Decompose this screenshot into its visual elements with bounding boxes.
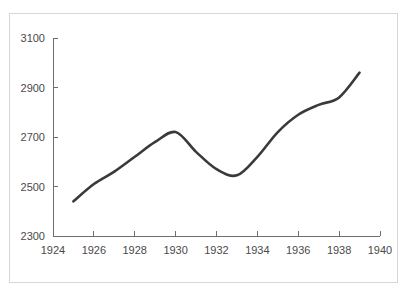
x-tick-label: 1940 bbox=[368, 244, 392, 256]
y-tick-label: 2500 bbox=[21, 181, 45, 193]
y-axis: 23002500270029003100 bbox=[21, 32, 58, 242]
x-axis: 192419261928193019321934193619381940 bbox=[41, 231, 392, 256]
y-tick-label: 2300 bbox=[21, 230, 45, 242]
x-tick-label: 1924 bbox=[41, 244, 65, 256]
chart-figure: 23002500270029003100 1924192619281930193… bbox=[0, 0, 408, 296]
x-tick-label: 1934 bbox=[245, 244, 269, 256]
x-tick-label: 1938 bbox=[327, 244, 351, 256]
data-series-group bbox=[73, 73, 359, 202]
x-tick-label: 1936 bbox=[286, 244, 310, 256]
y-tick-label: 2700 bbox=[21, 131, 45, 143]
y-tick-label: 3100 bbox=[21, 32, 45, 44]
line-chart-plot: 23002500270029003100 1924192619281930193… bbox=[0, 0, 408, 296]
data-line-series-1 bbox=[73, 73, 359, 202]
x-tick-label: 1930 bbox=[163, 244, 187, 256]
x-tick-label: 1926 bbox=[82, 244, 106, 256]
x-tick-label: 1928 bbox=[123, 244, 147, 256]
y-tick-label: 2900 bbox=[21, 82, 45, 94]
x-tick-label: 1932 bbox=[204, 244, 228, 256]
